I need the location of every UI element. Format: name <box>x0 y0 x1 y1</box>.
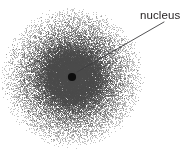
atom-diagram-figure: nucleus <box>0 0 194 150</box>
annotation-overlay <box>0 0 194 150</box>
nucleus-leader-line <box>77 22 164 72</box>
nucleus-label: nucleus <box>140 10 180 22</box>
